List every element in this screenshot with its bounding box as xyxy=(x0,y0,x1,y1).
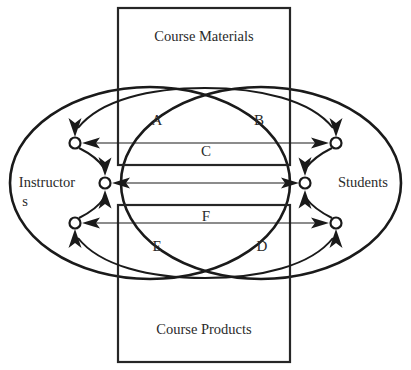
arc-instructor-top-to-middle-arrowhead xyxy=(99,157,112,176)
node-instructor-middle[interactable] xyxy=(100,178,111,189)
arc-instructor-top-to-middle[interactable] xyxy=(79,148,112,176)
arc-instructor-bottom-to-middle-path xyxy=(79,198,104,218)
arc-instructor-top-to-middle-path xyxy=(79,148,104,168)
arc-instructor-bottom-to-middle-arrowhead xyxy=(99,190,112,209)
arc-student-bottom-to-middle-arrowhead xyxy=(299,190,312,209)
region-label-d: D xyxy=(257,238,268,254)
ellipse-students-label: Students xyxy=(338,174,388,190)
box-course-products-label: Course Products xyxy=(156,321,252,337)
arc-student-top-to-middle-arrowhead xyxy=(299,157,312,176)
diagram-root: Course Materials Course Products Instruc… xyxy=(0,0,411,370)
ellipse-instructors-label-line2: s xyxy=(22,193,28,209)
region-label-c: C xyxy=(201,143,211,159)
group-boxes xyxy=(118,8,290,362)
box-course-products[interactable] xyxy=(118,205,290,362)
region-label-f: F xyxy=(202,208,210,224)
node-student-middle[interactable] xyxy=(300,178,311,189)
arc-instructor-bottom-to-middle[interactable] xyxy=(79,190,112,218)
arc-student-bottom-to-middle-path xyxy=(306,198,332,218)
arc-student-top-to-middle[interactable] xyxy=(299,148,333,176)
ellipse-instructors-label-line1: Instructor xyxy=(19,174,76,190)
link-middle-horizontal[interactable] xyxy=(112,178,299,189)
node-instructor-bottom[interactable] xyxy=(70,218,81,229)
region-label-b: B xyxy=(254,112,264,128)
region-label-e: E xyxy=(152,238,161,254)
node-student-top[interactable] xyxy=(331,138,342,149)
region-label-a: A xyxy=(152,112,163,128)
node-student-bottom[interactable] xyxy=(331,218,342,229)
diagram-canvas: Course Materials Course Products Instruc… xyxy=(0,0,411,370)
arc-student-bottom-to-middle[interactable] xyxy=(299,190,333,218)
node-instructor-top[interactable] xyxy=(70,138,81,149)
box-course-materials-label: Course Materials xyxy=(154,28,254,44)
arc-student-top-to-middle-path xyxy=(306,148,332,168)
